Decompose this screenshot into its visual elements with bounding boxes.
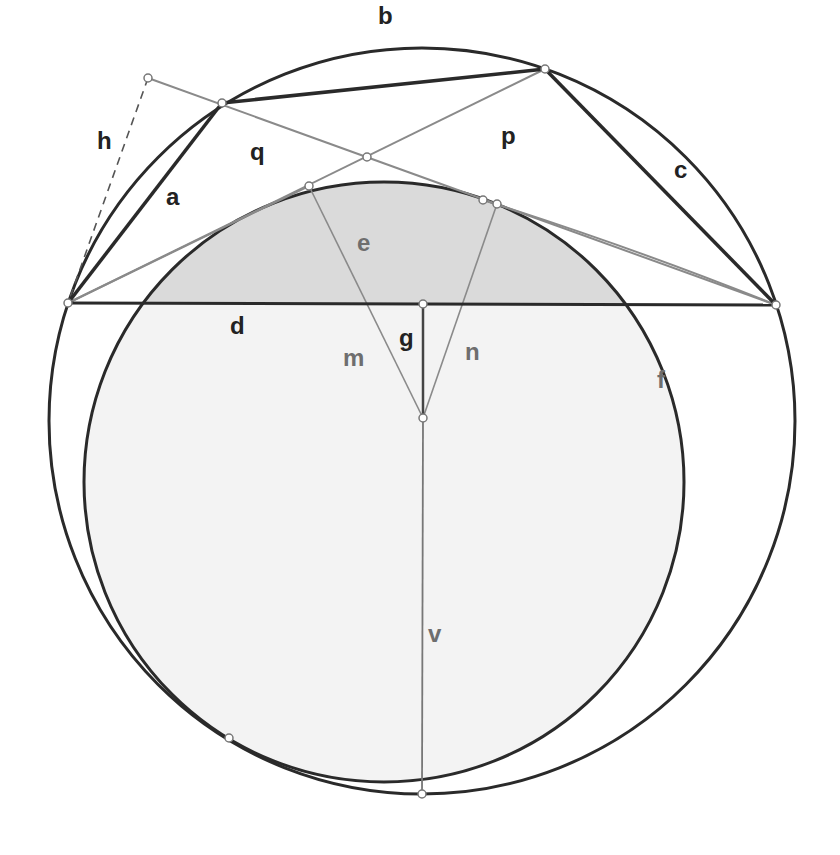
label-h: h [97, 127, 112, 154]
point-tangent-2[interactable] [479, 196, 487, 204]
label-c: c [674, 156, 687, 183]
point-tangent-1[interactable] [305, 182, 313, 190]
label-d: d [230, 312, 245, 339]
point-left-vertex[interactable] [64, 299, 72, 307]
label-f: f [657, 366, 666, 393]
segment-v [422, 418, 423, 794]
label-g: g [399, 324, 414, 351]
label-e: e [357, 229, 370, 256]
point-bottom[interactable] [418, 790, 426, 798]
label-n: n [465, 338, 480, 365]
label-b: b [378, 2, 393, 29]
label-a: a [166, 183, 180, 210]
label-q: q [250, 138, 265, 165]
point-vertex-b[interactable] [541, 65, 549, 73]
label-m: m [343, 344, 364, 371]
label-v: v [428, 620, 442, 647]
point-right-vertex[interactable] [772, 301, 780, 309]
point-h-top[interactable] [144, 74, 152, 82]
point-vertex-a[interactable] [218, 99, 226, 107]
point-tangent-lower[interactable] [225, 734, 233, 742]
point-center[interactable] [419, 414, 427, 422]
point-diagonal-intersection[interactable] [363, 153, 371, 161]
geometry-diagram: a b c d e f g h m n p q v [0, 0, 840, 855]
label-p: p [501, 122, 516, 149]
point-g-top[interactable] [419, 300, 427, 308]
side-b [222, 69, 545, 103]
point-tangent-3[interactable] [493, 200, 501, 208]
diagram-canvas: a b c d e f g h m n p q v [0, 0, 840, 855]
